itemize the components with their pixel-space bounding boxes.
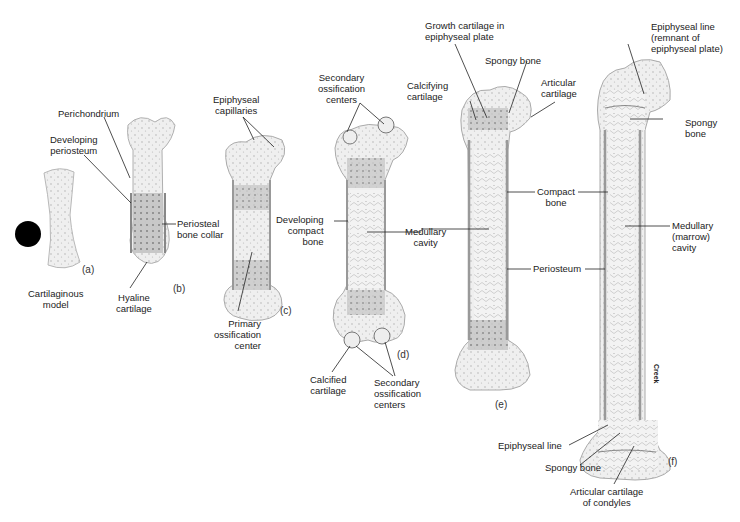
label-spongy-bone-e: Spongy bone <box>485 55 541 66</box>
stage-label-e: (e) <box>495 399 507 410</box>
label-spongy-bone-f-bottom: Spongy bone <box>545 462 601 473</box>
bone-d <box>333 117 408 348</box>
label-calcified-cartilage: Calcified cartilage <box>310 374 346 396</box>
label-secondary-ossification-centers-bottom: Secondary ossification centers <box>374 377 421 410</box>
label-periosteal-bone-collar: Periosteal bone collar <box>177 218 223 240</box>
stage-label-c: (c) <box>280 305 292 316</box>
label-perichondrium: Perichondrium <box>58 108 119 119</box>
bone-development-diagram: Perichondrium Developing periosteum Peri… <box>0 0 740 522</box>
label-articular-cartilage-condyles: Articular cartilage of condyles <box>570 486 643 508</box>
diagram-artwork <box>0 0 740 522</box>
artist-credit: Creek <box>653 364 660 383</box>
label-calcifying-cartilage: Calcifying cartilage <box>407 80 448 102</box>
caption-cartilaginous-model: Cartilaginous model <box>28 288 83 310</box>
label-secondary-ossification-centers-top: Secondary ossification centers <box>318 72 365 105</box>
label-primary-ossification-center: Primary ossification center <box>214 318 261 351</box>
label-epiphyseal-line-bottom: Epiphyseal line <box>498 440 562 451</box>
bone-a <box>44 169 80 268</box>
stage-label-f: (f) <box>668 456 677 467</box>
label-epiphyseal-capillaries: Epiphyseal capillaries <box>213 94 259 116</box>
bone-e <box>455 86 531 390</box>
label-periosteum: Periosteum <box>533 263 581 274</box>
label-compact-bone: Compact bone <box>537 186 575 208</box>
label-developing-compact-bone: Developing compact bone <box>276 214 324 247</box>
stage-label-a: (a) <box>82 264 94 275</box>
stage-label-d: (d) <box>397 349 409 360</box>
label-epiphyseal-line-top: Epiphyseal line (remnant of epiphyseal p… <box>651 21 723 54</box>
label-spongy-bone-f-top: Spongy bone <box>685 117 717 139</box>
stage-label-b: (b) <box>173 283 185 294</box>
label-medullary-marrow-cavity: Medullary (marrow) cavity <box>672 220 713 253</box>
label-articular-cartilage-e: Articular cartilage <box>541 77 577 99</box>
bone-b <box>128 118 175 264</box>
label-medullary-cavity-d: Medullary cavity <box>405 226 446 248</box>
bone-f <box>580 60 670 480</box>
label-developing-periosteum: Developing periosteum <box>50 134 98 156</box>
label-growth-cartilage: Growth cartilage in epiphyseal plate <box>425 20 504 42</box>
label-hyaline-cartilage: Hyaline cartilage <box>116 292 152 314</box>
black-dot-marker <box>15 221 41 247</box>
